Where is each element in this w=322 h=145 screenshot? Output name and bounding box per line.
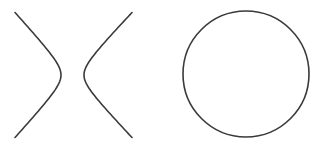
hyperbola-right-branch	[84, 13, 132, 138]
hyperbola	[15, 13, 132, 138]
diagram-canvas	[0, 0, 322, 145]
diagram-svg	[0, 0, 322, 145]
hyperbola-left-branch	[15, 13, 61, 138]
circle	[183, 11, 309, 137]
